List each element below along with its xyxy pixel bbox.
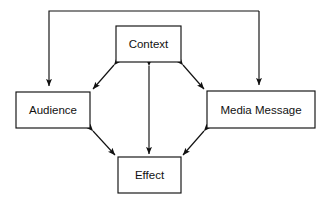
node-context[interactable]: Context [116, 26, 181, 62]
diagram-canvas: Context Audience Media Message Effect [0, 0, 331, 203]
link-audience-effect [93, 131, 115, 155]
link-media-message-effect [183, 131, 204, 155]
node-audience[interactable]: Audience [16, 92, 90, 128]
node-label-audience: Audience [29, 104, 77, 116]
node-effect[interactable]: Effect [118, 157, 181, 193]
link-context-audience [93, 65, 114, 89]
communication-model-diagram: Context Audience Media Message Effect [0, 0, 331, 203]
node-label-media-message: Media Message [220, 104, 301, 116]
node-label-effect: Effect [135, 169, 165, 181]
link-context-media-message [183, 65, 204, 89]
node-media-message[interactable]: Media Message [207, 91, 315, 128]
node-label-context: Context [129, 38, 169, 50]
link-group [93, 65, 204, 155]
